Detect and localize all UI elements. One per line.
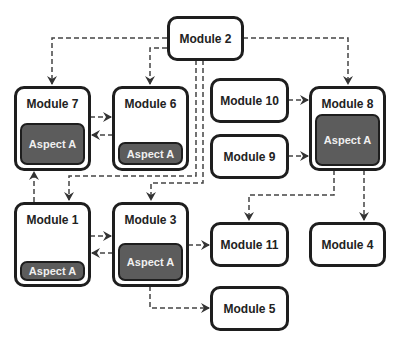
module-11-label: Module 11 <box>213 238 286 252</box>
module-10-node[interactable]: Module 10 <box>210 78 289 123</box>
module-11-node[interactable]: Module 11 <box>210 222 289 267</box>
module-7-node[interactable]: Module 7 Aspect A <box>14 86 91 171</box>
module-6-node[interactable]: Module 6 Aspect A <box>112 86 189 171</box>
module-5-label: Module 5 <box>213 302 286 316</box>
module-9-node[interactable]: Module 9 <box>210 134 289 179</box>
module-1-label: Module 1 <box>17 213 88 227</box>
module-5-node[interactable]: Module 5 <box>210 286 289 331</box>
module-3-label: Module 3 <box>115 213 186 227</box>
edge-m3-m5 <box>150 286 209 308</box>
module-7-aspect: Aspect A <box>20 123 85 165</box>
module-1-aspect: Aspect A <box>20 261 85 281</box>
module-3-node[interactable]: Module 3 Aspect A <box>112 202 189 287</box>
module-1-node[interactable]: Module 1 Aspect A <box>14 202 91 287</box>
module-3-aspect: Aspect A <box>118 243 183 281</box>
module-8-node[interactable]: Module 8 Aspect A <box>309 86 386 171</box>
edge-m2-m7 <box>52 38 167 84</box>
module-6-aspect: Aspect A <box>118 142 183 165</box>
module-4-label: Module 4 <box>312 238 383 252</box>
module-2-node[interactable]: Module 2 <box>167 16 244 61</box>
module-6-label: Module 6 <box>115 97 186 111</box>
module-4-node[interactable]: Module 4 <box>309 222 386 267</box>
module-7-label: Module 7 <box>17 97 88 111</box>
edge-m2-m6 <box>150 48 167 84</box>
module-2-label: Module 2 <box>170 32 241 46</box>
module-10-label: Module 10 <box>213 94 286 108</box>
module-9-label: Module 9 <box>213 150 286 164</box>
module-8-label: Module 8 <box>312 97 383 111</box>
module-8-aspect: Aspect A <box>315 114 380 166</box>
